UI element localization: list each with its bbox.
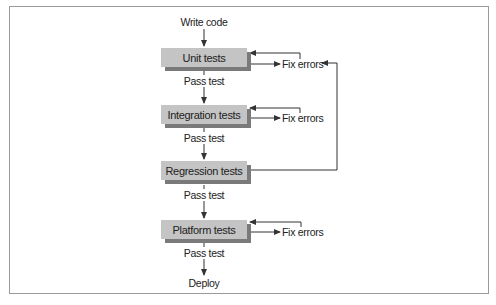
stage-label: Integration tests — [167, 109, 240, 121]
stage-label: Regression tests — [165, 165, 242, 177]
stage-platform-tests: Platform tests — [161, 220, 247, 239]
connector-lines — [0, 0, 496, 305]
start-label: Write code — [181, 16, 228, 28]
stage-label: Platform tests — [172, 224, 235, 236]
pass-label: Pass test — [184, 247, 225, 259]
pass-label: Pass test — [184, 132, 225, 144]
pass-label: Pass test — [184, 189, 225, 201]
fix-errors-label: Fix errors — [282, 58, 323, 70]
stage-integration-tests: Integration tests — [161, 105, 247, 124]
stage-regression-tests: Regression tests — [161, 161, 247, 180]
pass-label: Pass test — [184, 75, 225, 87]
stage-label: Unit tests — [183, 52, 226, 64]
fix-errors-label: Fix errors — [282, 226, 323, 238]
fix-errors-label: Fix errors — [282, 112, 323, 124]
end-label: Deploy — [189, 277, 220, 289]
stage-unit-tests: Unit tests — [161, 48, 247, 67]
